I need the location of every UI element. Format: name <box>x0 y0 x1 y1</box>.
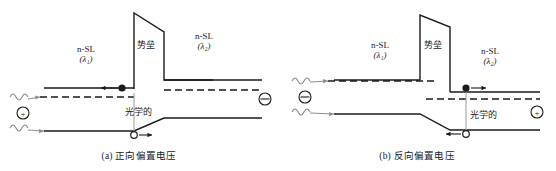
valence-band-b <box>334 114 540 130</box>
valence-band-a <box>44 118 262 131</box>
region-label-right-b: n-SL (λ₂) <box>464 46 516 66</box>
region-wavelength-right-a: (λ₂) <box>178 41 230 51</box>
barrier-label-b: 势垒 <box>424 38 442 51</box>
charge-sign-left-a: + <box>20 109 25 119</box>
electron-marker-b <box>462 84 469 91</box>
charge-sign-right-b: + <box>534 108 539 118</box>
band-diagram-b: + <box>278 0 556 171</box>
panel-caption-a: (a) 正向偏置电压 <box>0 148 278 162</box>
photon-arrowhead-lower-b <box>329 112 334 116</box>
photon-arrowhead-lower-a <box>39 129 44 133</box>
region-material-right-a: n-SL <box>178 31 230 41</box>
region-wavelength-left-a: (λ₁) <box>60 54 112 64</box>
hole-marker-b <box>463 131 470 138</box>
panel-caption-b: (b) 反向偏置电压 <box>278 148 556 162</box>
photon-wave-upper-b <box>292 78 310 84</box>
electron-arrowhead-a <box>101 86 106 90</box>
potential-barrier-a <box>134 13 213 89</box>
hole-marker-a <box>131 132 138 139</box>
photon-wave-lower-b <box>292 109 310 115</box>
panel-b: + n-SL (λ₁) n-SL (λ₂) 势垒 光学的 (b) 反向偏置电压 <box>278 0 556 171</box>
region-material-right-b: n-SL <box>464 46 516 56</box>
electron-marker-a <box>118 84 125 91</box>
region-wavelength-right-b: (λ₂) <box>464 56 516 66</box>
region-label-left-a: n-SL (λ₁) <box>60 44 112 64</box>
region-label-left-b: n-SL (λ₁) <box>354 40 406 60</box>
hole-arrowhead-a <box>148 133 153 137</box>
region-material-left-b: n-SL <box>354 40 406 50</box>
figure-root: + n-SL (λ₁) n-SL (λ₂) 势垒 光学的 (a) 正向偏置电压 <box>0 0 556 171</box>
barrier-label-a: 势垒 <box>137 38 155 51</box>
photon-wave-upper-a <box>10 94 28 100</box>
region-material-left-a: n-SL <box>60 44 112 54</box>
optical-label-a: 光学的 <box>125 105 152 118</box>
hole-arrowhead-b <box>446 132 451 136</box>
potential-barrier-b <box>420 15 450 92</box>
panel-a: + n-SL (λ₁) n-SL (λ₂) 势垒 光学的 (a) 正向偏置电压 <box>0 0 278 171</box>
electron-arrowhead-b <box>482 86 487 90</box>
region-label-right-a: n-SL (λ₂) <box>178 31 230 51</box>
photon-arrowhead-upper-b <box>323 79 328 83</box>
optical-label-b: 光学的 <box>470 108 497 121</box>
band-diagram-a: + <box>0 0 278 171</box>
region-wavelength-left-b: (λ₁) <box>354 50 406 60</box>
photon-wave-lower-a <box>10 125 28 131</box>
